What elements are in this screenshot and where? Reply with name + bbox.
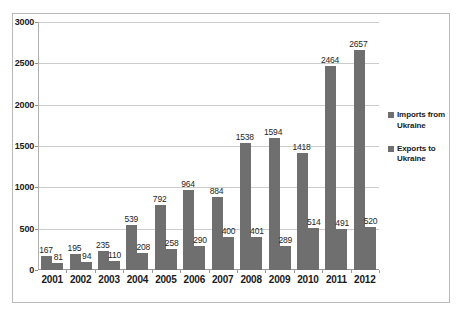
bar-label-exports: 290 [193, 235, 207, 245]
legend-item-label: Imports fromUkraine [397, 110, 445, 132]
bar-label-exports: 94 [82, 251, 91, 261]
y-axis-tick-label: 1000 [15, 182, 34, 192]
bar-label-imports: 2657 [349, 39, 367, 49]
bar-label-exports: 401 [250, 226, 264, 236]
legend-item-imports: Imports fromUkraine [388, 110, 460, 132]
bar-label-exports: 258 [165, 238, 179, 248]
bar-exports [194, 246, 205, 270]
y-axis-tick-mark [35, 229, 38, 230]
bar-label-imports: 2464 [321, 55, 339, 65]
bar-label-exports: 514 [307, 217, 321, 227]
x-axis-tick-label: 2010 [297, 274, 318, 285]
bar-group: 2464491 [322, 22, 350, 270]
bar-exports [137, 253, 148, 270]
y-axis-tick-labels: 050010001500200025003000 [0, 22, 34, 270]
x-axis-tick-mark [322, 270, 323, 273]
bar-label-imports: 167 [39, 245, 53, 255]
bar-group: 539208 [123, 22, 151, 270]
y-axis-tick-label: 2000 [15, 100, 34, 110]
bar-label-exports: 491 [335, 218, 349, 228]
bar-label-imports: 964 [181, 179, 195, 189]
bar-exports [52, 263, 63, 270]
bar-imports [269, 138, 280, 270]
x-axis-tick-label: 2003 [98, 274, 119, 285]
bar-imports [183, 190, 194, 270]
plot-area: 1678119594235110539208792258964290884400… [38, 22, 379, 270]
bar-exports [166, 249, 177, 270]
x-axis-tick-mark [209, 270, 210, 273]
bar-exports [81, 262, 92, 270]
bar-exports [336, 229, 347, 270]
bar-exports [109, 261, 120, 270]
bar-group: 1538401 [237, 22, 265, 270]
y-axis-tick-label: 3000 [15, 17, 34, 27]
bar-label-imports: 195 [68, 243, 82, 253]
y-axis-tick-mark [35, 270, 38, 271]
x-axis-tick-mark [265, 270, 266, 273]
y-axis-tick-mark [35, 22, 38, 23]
bar-imports [325, 66, 336, 270]
x-axis-tick-mark [123, 270, 124, 273]
bar-group: 1418514 [294, 22, 322, 270]
bar-imports [297, 153, 308, 270]
legend-swatch-icon [388, 112, 394, 118]
x-axis-tick-label: 2008 [240, 274, 261, 285]
legend-swatch-icon [388, 146, 394, 152]
y-axis-tick-label: 1500 [15, 141, 34, 151]
bar-label-exports: 520 [364, 216, 378, 226]
bar-group: 235110 [95, 22, 123, 270]
y-axis-tick-mark [35, 146, 38, 147]
bar-exports [365, 227, 376, 270]
x-axis-tick-labels: 2001200220032004200520062007200820092010… [38, 274, 379, 290]
bar-label-exports: 289 [279, 235, 293, 245]
bar-exports [251, 237, 262, 270]
x-axis-tick-label: 2001 [41, 274, 62, 285]
x-axis-tick-mark [180, 270, 181, 273]
bar-label-imports: 1594 [264, 127, 282, 137]
bar-label-imports: 1538 [236, 132, 254, 142]
bar-label-imports: 884 [210, 186, 224, 196]
x-axis-tick-mark [237, 270, 238, 273]
x-axis-tick-mark [66, 270, 67, 273]
x-axis-tick-label: 2012 [354, 274, 375, 285]
bar-label-exports: 400 [222, 226, 236, 236]
bar-imports [41, 256, 52, 270]
legend-item-label: Exports toUkraine [397, 144, 436, 166]
y-axis-tick-mark [35, 63, 38, 64]
y-axis-tick-mark [35, 105, 38, 106]
legend-item-exports: Exports toUkraine [388, 144, 460, 166]
bar-label-exports: 208 [136, 242, 150, 252]
bar-imports [240, 143, 251, 270]
x-axis-tick-label: 2004 [127, 274, 148, 285]
bar-group: 1594289 [265, 22, 293, 270]
x-axis-tick-mark [95, 270, 96, 273]
bar-group: 2657520 [351, 22, 379, 270]
bar-exports [308, 228, 319, 270]
bar-group: 964290 [180, 22, 208, 270]
x-axis-tick-mark [379, 270, 380, 273]
bar-imports [354, 50, 365, 270]
x-axis-tick-label: 2006 [184, 274, 205, 285]
x-axis-tick-label: 2011 [326, 274, 347, 285]
x-axis-tick-label: 2002 [70, 274, 91, 285]
y-axis-tick-label: 0 [29, 265, 34, 275]
bar-label-imports: 792 [153, 194, 167, 204]
chart-legend: Imports fromUkraine Exports toUkraine [388, 110, 460, 177]
x-axis-tick-label: 2007 [212, 274, 233, 285]
bar-exports [280, 246, 291, 270]
bars-layer: 1678119594235110539208792258964290884400… [38, 22, 379, 270]
bar-group: 792258 [152, 22, 180, 270]
y-axis-tick-mark [35, 187, 38, 188]
y-axis-tick-label: 500 [20, 224, 34, 234]
bar-imports [70, 254, 81, 270]
bar-group: 884400 [209, 22, 237, 270]
x-axis-tick-label: 2005 [155, 274, 176, 285]
bar-label-imports: 235 [96, 240, 110, 250]
bar-label-exports: 110 [108, 250, 121, 260]
bar-label-exports: 81 [54, 252, 63, 262]
x-axis-tick-mark [152, 270, 153, 273]
bar-group: 16781 [38, 22, 66, 270]
bar-label-imports: 539 [124, 214, 138, 224]
chart-container: 050010001500200025003000 167811959423511… [0, 0, 464, 320]
bar-group: 19594 [66, 22, 94, 270]
